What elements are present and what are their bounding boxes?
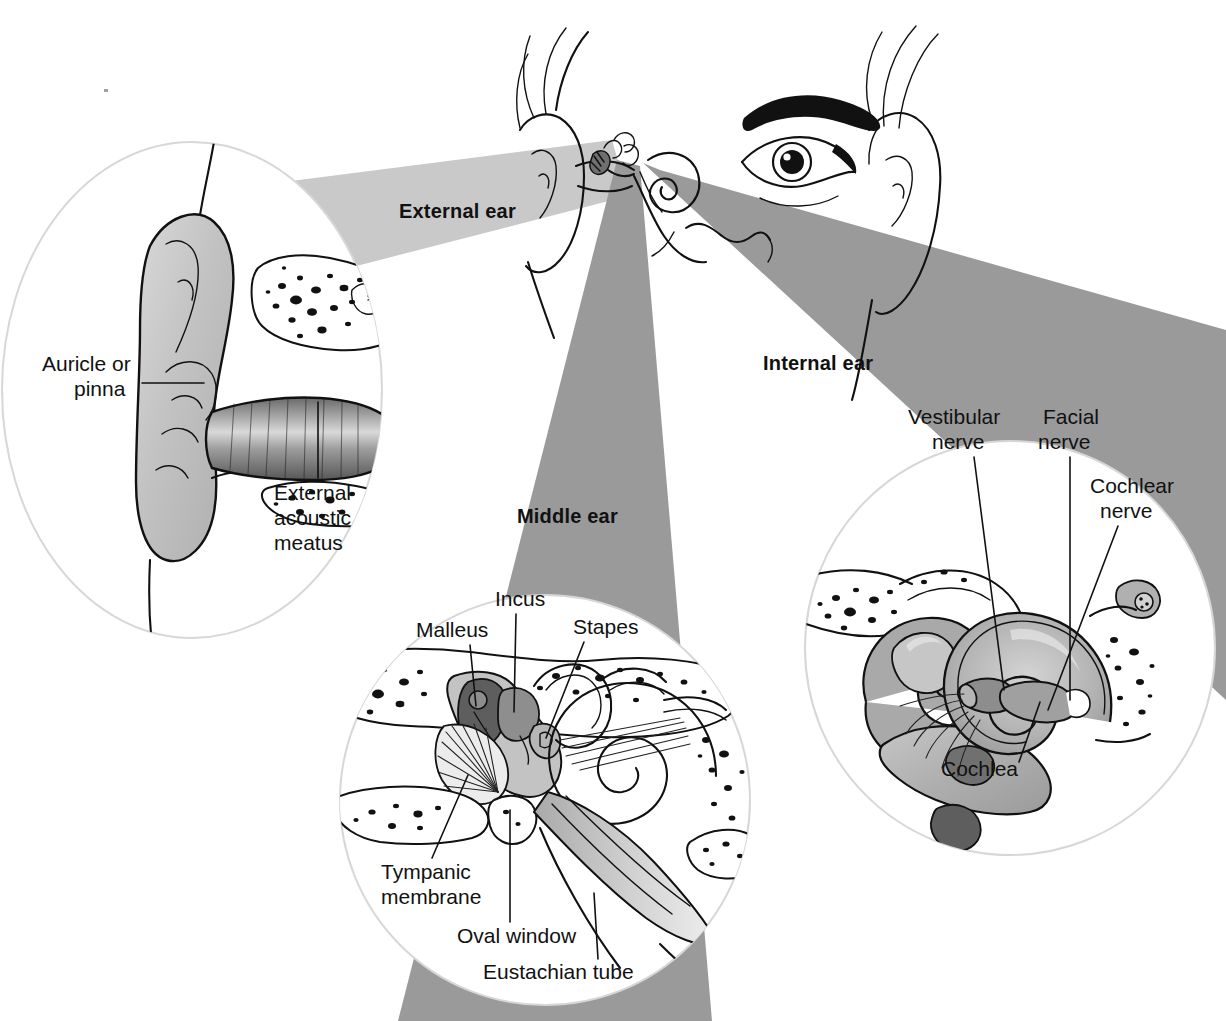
- external-ear-heading: External ear: [399, 200, 516, 222]
- tympanic-label-line2: membrane: [381, 885, 481, 908]
- internal-ear-heading: Internal ear: [763, 352, 873, 374]
- oval-window-label: Oval window: [457, 924, 577, 947]
- auricle-label-line1: Auricle or: [42, 352, 131, 375]
- figure-canvas: Auricle or pinna External acoustic meatu…: [0, 0, 1226, 1021]
- tympanic-label-line1: Tympanic: [381, 860, 471, 883]
- vestibular-label-line1: Vestibular: [908, 405, 1000, 428]
- eyebrow: [742, 95, 880, 131]
- cochlear-label-line1: Cochlear: [1090, 474, 1174, 497]
- cochlear-label-line2: nerve: [1100, 499, 1153, 522]
- facial-label-line2: nerve: [1038, 430, 1091, 453]
- meatus-label-line2: acoustic: [274, 506, 351, 529]
- scan-speck: [104, 89, 108, 92]
- auricle-label-line2: pinna: [74, 377, 126, 400]
- meatus-label-line3: meatus: [274, 531, 343, 554]
- stapes-label: Stapes: [573, 615, 638, 638]
- cochlea-label: Cochlea: [941, 757, 1018, 780]
- external-ear-panel: Auricle or pinna External acoustic meatu…: [2, 142, 516, 672]
- facial-label-line1: Facial: [1043, 405, 1099, 428]
- malleus-label: Malleus: [416, 618, 488, 641]
- middle-ear-heading: Middle ear: [517, 505, 618, 527]
- meatus-label-line1: External: [274, 481, 351, 504]
- eustachian-label: Eustachian tube: [483, 960, 634, 983]
- eye: [742, 137, 856, 206]
- incus-label: Incus: [495, 587, 545, 610]
- vestibular-label-line2: nerve: [932, 430, 985, 453]
- ear-anatomy-figure: Auricle or pinna External acoustic meatu…: [0, 0, 1226, 1021]
- tympanic-fan: [386, 416, 416, 478]
- acoustic-meatus: [206, 398, 396, 480]
